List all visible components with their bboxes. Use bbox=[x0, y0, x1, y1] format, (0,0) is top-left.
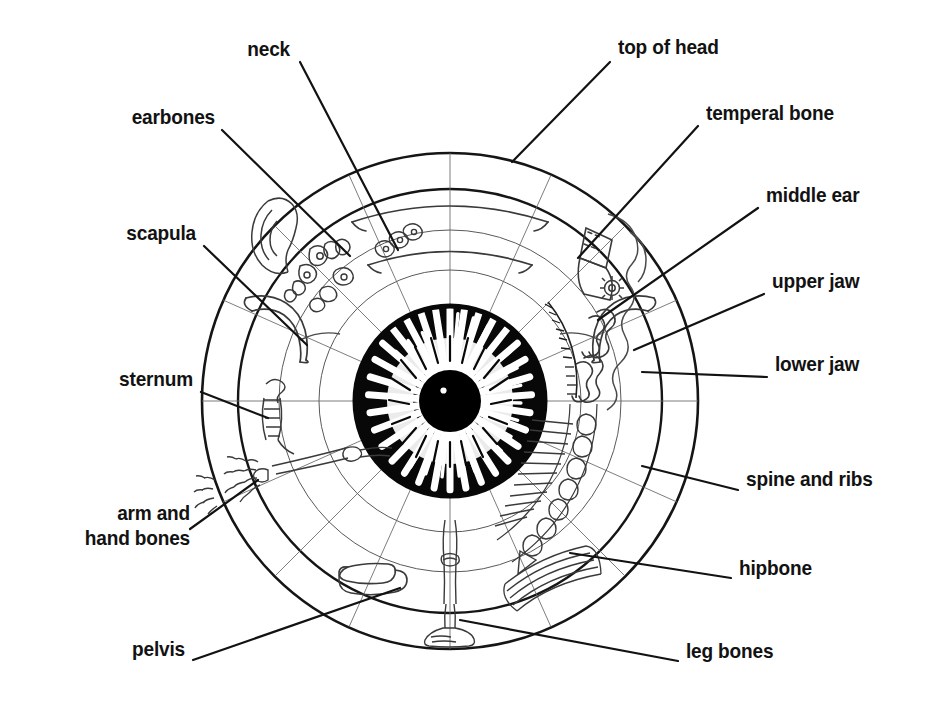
label-upper-jaw[interactable]: upper jaw bbox=[772, 268, 859, 293]
label-pelvis[interactable]: pelvis bbox=[92, 636, 185, 661]
label-temperal-bone[interactable]: temperal bone bbox=[706, 100, 834, 125]
label-arm-and-hand-bones[interactable]: arm and hand bones bbox=[23, 500, 190, 550]
label-top-of-head[interactable]: top of head bbox=[618, 34, 719, 59]
label-lower-jaw[interactable]: lower jaw bbox=[775, 351, 859, 376]
label-spine-and-ribs[interactable]: spine and ribs bbox=[746, 466, 873, 491]
label-earbones[interactable]: earbones bbox=[57, 104, 215, 129]
label-neck[interactable]: neck bbox=[160, 36, 290, 61]
label-scapula[interactable]: scapula bbox=[57, 220, 197, 245]
label-middle-ear[interactable]: middle ear bbox=[766, 182, 860, 207]
diagram-canvas: neck earbones scapula sternum arm and ha… bbox=[0, 0, 940, 720]
iris bbox=[355, 301, 545, 496]
label-hipbone[interactable]: hipbone bbox=[739, 555, 812, 580]
label-leg-bones[interactable]: leg bones bbox=[686, 638, 773, 663]
pupil bbox=[419, 370, 481, 432]
pupil-highlight bbox=[440, 387, 446, 393]
label-sternum[interactable]: sternum bbox=[54, 366, 194, 391]
